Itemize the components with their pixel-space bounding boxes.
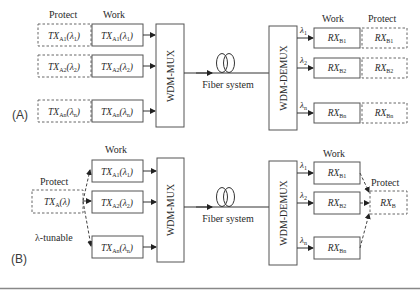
rx-work-b2: RXB2: [314, 58, 360, 78]
tx-work-header: Work: [103, 9, 125, 20]
tx-work-b-an: TXAn(λn): [92, 236, 143, 258]
rx-work-bn: RXBn: [314, 103, 360, 123]
tx-protect-a2: TXA2(λ2): [38, 55, 91, 77]
lambda-tunable-label: λ-tunable: [35, 232, 73, 243]
rx-work-header-b: Work: [323, 148, 345, 159]
fiber-system-label: Fiber system: [202, 79, 254, 90]
tx-protect-tunable: TXA(λ): [32, 190, 83, 213]
rx-work-header: Work: [322, 13, 344, 24]
tx-work-b-a1: TXA1(λ1): [92, 160, 143, 182]
rx-protect-header-b: Protect: [371, 177, 400, 188]
svg-text:WDM-DEMUX: WDM-DEMUX: [278, 179, 289, 245]
svg-text:WDM-MUX: WDM-MUX: [165, 49, 176, 102]
tx-work-header-b: Work: [105, 144, 127, 155]
lambda-2-a: λ2: [299, 55, 307, 66]
rx-work-b1: RXB1: [314, 28, 360, 48]
svg-text:WDM-DEMUX: WDM-DEMUX: [278, 44, 289, 110]
lambda-n-a: λn: [299, 100, 307, 111]
tx-protect-header: Protect: [49, 9, 78, 20]
lambda-n-b: λn: [299, 235, 307, 246]
wdm-demux-b: WDM-DEMUX: [269, 161, 297, 265]
lambda-1-b: λ1: [299, 160, 307, 171]
tx-protect-an: TXAn(λn): [38, 100, 91, 122]
svg-text:WDM-MUX: WDM-MUX: [165, 183, 176, 236]
wdm-demux-a: WDM-DEMUX: [269, 26, 297, 130]
tx-protect-header-b: Protect: [40, 176, 69, 187]
panel-a: (A) Protect Work TXA1(λ1) TXA2(λ2) TXAn(…: [12, 9, 407, 130]
rx-protect-b1: RXB1: [362, 28, 407, 48]
panel-a-label: (A): [12, 108, 28, 122]
rx-work-b-bn: RXBn: [314, 237, 360, 259]
fiber-system-b: Fiber system: [184, 188, 269, 225]
tx-work-b-a2: TXA2(λ2): [92, 191, 143, 213]
rx-work-b-b1: RXB1: [314, 162, 360, 184]
tx-work-a2: TXA2(λ2): [92, 55, 143, 77]
rx-protect-bn: RXBn: [362, 103, 407, 123]
wdm-mux-a: WDM-MUX: [156, 24, 184, 127]
rx-work-b-b2: RXB2: [314, 192, 360, 214]
panel-b: (B) Protect TXA(λ) λ-tunable Work TXA1(λ…: [11, 144, 407, 266]
fiber-system-a: Fiber system: [184, 54, 269, 91]
wdm-protection-diagram: (A) Protect Work TXA1(λ1) TXA2(λ2) TXAn(…: [0, 0, 420, 290]
tx-work-a1: TXA1(λ1): [92, 24, 143, 46]
tx-work-an: TXAn(λn): [92, 100, 143, 122]
panel-b-label: (B): [11, 252, 27, 266]
wdm-mux-b: WDM-MUX: [157, 158, 184, 262]
tx-protect-a1: TXA1(λ1): [38, 24, 91, 46]
svg-text:Fiber system: Fiber system: [202, 213, 254, 224]
lambda-2-b: λ2: [299, 190, 307, 201]
rx-protect-header: Protect: [368, 13, 397, 24]
rx-protect-b: RXB: [370, 191, 407, 214]
rx-protect-b2: RXB2: [362, 58, 407, 78]
lambda-1-a: λ1: [299, 25, 307, 36]
